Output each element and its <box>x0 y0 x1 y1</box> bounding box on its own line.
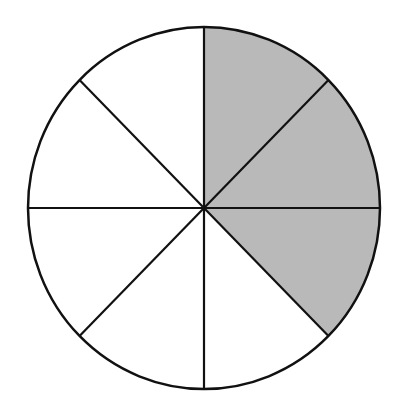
divider-lines <box>28 27 380 389</box>
fraction-circle-diagram <box>0 0 399 408</box>
